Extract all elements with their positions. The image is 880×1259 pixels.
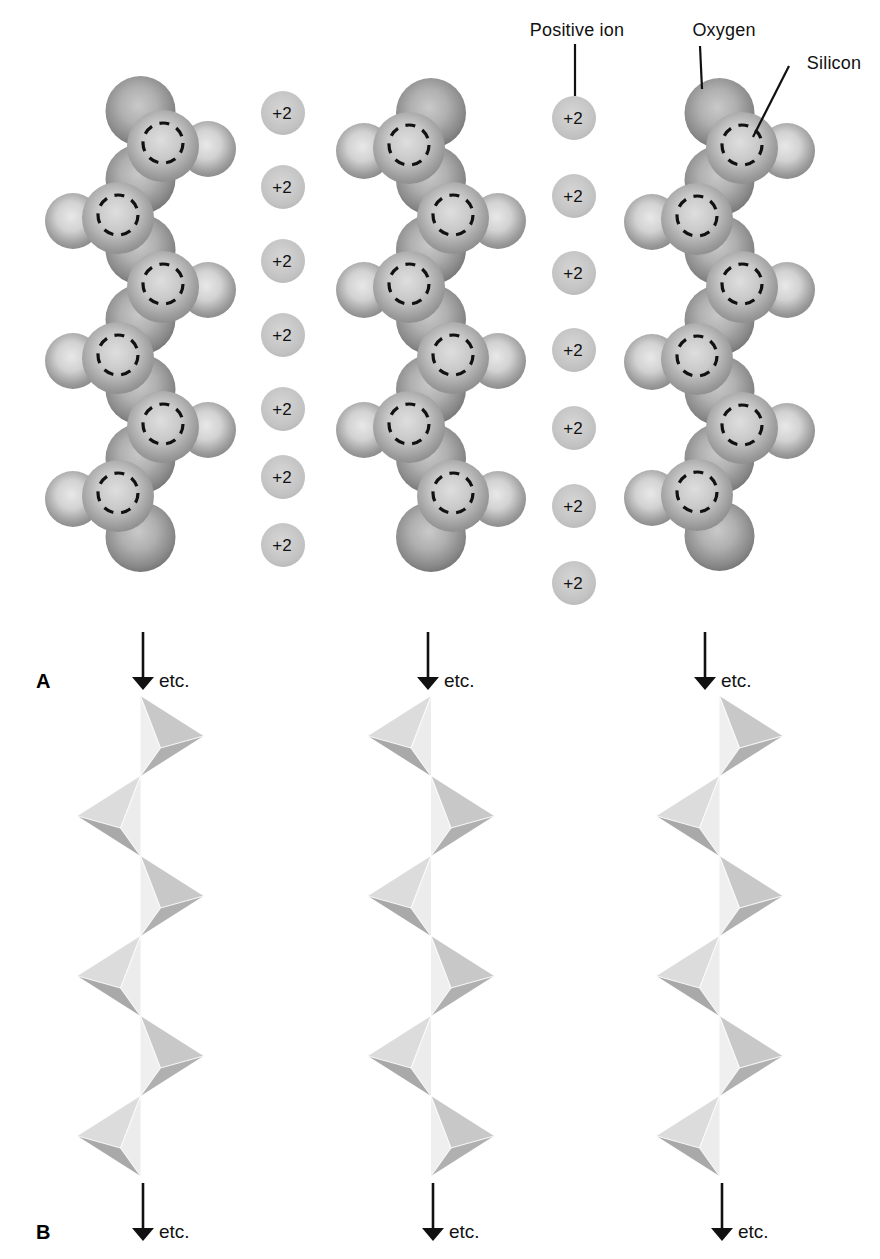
silica-tetrahedron	[657, 936, 720, 1016]
oxygen-sphere-front	[373, 391, 445, 463]
oxygen-sphere-front	[127, 391, 199, 463]
oxygen-sphere-front	[417, 182, 489, 254]
oxygen-sphere-front	[417, 322, 489, 394]
silica-tetrahedron	[368, 1016, 431, 1096]
silica-tetrahedron	[720, 696, 783, 776]
ion-charge-label: +2	[563, 264, 582, 283]
silica-tetrahedron	[141, 856, 204, 936]
silicate-chain-right	[624, 78, 815, 571]
silica-tetrahedron	[141, 1016, 204, 1096]
positive-ion-column-2: +2+2+2+2+2+2+2	[552, 96, 596, 605]
arrow-head-icon	[132, 1228, 154, 1241]
continuation-arrow: etc.	[422, 1183, 480, 1242]
silica-tetrahedron	[78, 936, 141, 1016]
mineral-structure-figure: +2+2+2+2+2+2+2+2+2+2+2+2+2+2etc.etc.etc.…	[0, 0, 880, 1259]
silica-tetrahedron	[141, 696, 204, 776]
arrow-head-icon	[417, 677, 439, 690]
figure-canvas: +2+2+2+2+2+2+2+2+2+2+2+2+2+2etc.etc.etc.…	[0, 0, 880, 1259]
etc-label: etc.	[738, 1221, 769, 1242]
oxygen-sphere-front	[661, 323, 733, 395]
arrow-head-icon	[711, 1228, 733, 1241]
oxygen-sphere-front	[417, 460, 489, 532]
silica-tetrahedron	[720, 1016, 783, 1096]
panel-b-label: B	[36, 1222, 50, 1242]
ion-charge-label: +2	[563, 341, 582, 360]
continuation-arrow: etc.	[132, 1183, 190, 1242]
oxygen-label: Oxygen	[692, 21, 755, 39]
panel-a-label: A	[36, 671, 50, 691]
ion-charge-label: +2	[272, 252, 291, 271]
ion-charge-label: +2	[272, 104, 291, 123]
silica-tetrahedron	[657, 776, 720, 856]
silica-tetrahedron	[431, 1096, 494, 1176]
oxygen-sphere-front	[82, 322, 154, 394]
ion-charge-label: +2	[272, 536, 291, 555]
oxygen-sphere-front	[127, 110, 199, 182]
etc-label: etc.	[159, 670, 190, 691]
ion-charge-label: +2	[272, 468, 291, 487]
oxygen-sphere-front	[373, 112, 445, 184]
silicate-chain-middle	[336, 78, 526, 572]
silica-tetrahedron	[431, 936, 494, 1016]
silicate-chain-left	[45, 76, 236, 572]
oxygen-sphere-front	[373, 251, 445, 323]
oxygen-sphere-front	[706, 392, 778, 464]
oxygen-pointer-line	[700, 46, 702, 89]
oxygen-sphere-front	[127, 251, 199, 323]
oxygen-sphere-front	[661, 183, 733, 255]
continuation-arrow: etc.	[132, 632, 190, 691]
ion-charge-label: +2	[563, 574, 582, 593]
continuation-arrow: etc.	[417, 632, 475, 691]
ion-charge-label: +2	[272, 400, 291, 419]
etc-label: etc.	[449, 1221, 480, 1242]
oxygen-sphere-front	[82, 460, 154, 532]
tetrahedra-chain-left	[78, 696, 204, 1176]
tetrahedra-chain-middle	[368, 696, 494, 1176]
tetrahedra-chain-right	[657, 696, 783, 1176]
arrow-head-icon	[694, 677, 716, 690]
silica-tetrahedron	[431, 776, 494, 856]
oxygen-sphere-front	[82, 182, 154, 254]
ion-charge-label: +2	[272, 326, 291, 345]
silica-tetrahedron	[657, 1096, 720, 1176]
silicon-label: Silicon	[807, 54, 861, 72]
ion-charge-label: +2	[563, 419, 582, 438]
oxygen-sphere-front	[706, 112, 778, 184]
arrow-head-icon	[132, 677, 154, 690]
arrow-head-icon	[422, 1228, 444, 1241]
ion-charge-label: +2	[563, 109, 582, 128]
silica-tetrahedron	[720, 856, 783, 936]
continuation-arrow: etc.	[694, 632, 752, 691]
silica-tetrahedron	[78, 1096, 141, 1176]
ion-charge-label: +2	[272, 178, 291, 197]
etc-label: etc.	[721, 670, 752, 691]
positive-ion-label: Positive ion	[530, 21, 624, 39]
etc-label: etc.	[444, 670, 475, 691]
continuation-arrow: etc.	[711, 1183, 769, 1242]
silica-tetrahedron	[78, 776, 141, 856]
silica-tetrahedron	[368, 696, 431, 776]
positive-ion-column-1: +2+2+2+2+2+2+2	[261, 91, 305, 567]
ion-charge-label: +2	[563, 497, 582, 516]
ion-charge-label: +2	[563, 187, 582, 206]
etc-label: etc.	[159, 1221, 190, 1242]
silica-tetrahedron	[368, 856, 431, 936]
oxygen-sphere-front	[661, 459, 733, 531]
oxygen-sphere-front	[706, 251, 778, 323]
